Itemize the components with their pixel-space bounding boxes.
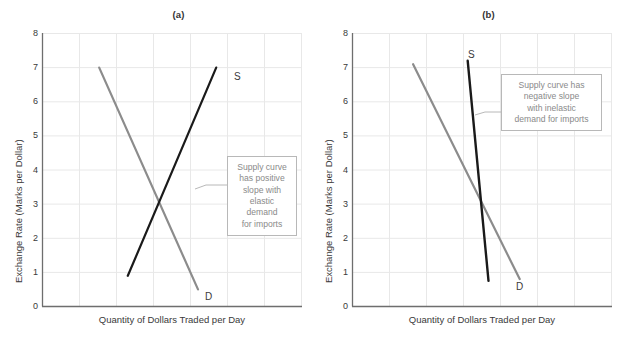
panel-b-ytick-4: 4 <box>334 165 348 175</box>
demand-curve-a <box>99 68 198 290</box>
panel-a-ytick-3: 3 <box>24 199 38 209</box>
panel-a: (a) <box>0 0 317 341</box>
grid-horizontal <box>352 34 612 273</box>
panel-b-ytick-7: 7 <box>334 62 348 72</box>
panel-b-xlabel: Quantity of Dollars Traded per Day <box>352 314 612 325</box>
panel-b-ylabel: Exchange Rate (Marks per Dollar) <box>323 139 334 283</box>
annotation-line: demand for imports <box>508 114 595 125</box>
panel-b-ytick-6: 6 <box>334 96 348 106</box>
grid-horizontal <box>42 34 302 273</box>
panel-b-ytick-8: 8 <box>334 28 348 38</box>
panel-a-xlabel: Quantity of Dollars Traded per Day <box>42 314 302 325</box>
panel-a-annotation: Supply curve has positive slope with ela… <box>227 156 297 236</box>
annotation-line: for imports <box>234 219 290 230</box>
panel-a-ytick-6: 6 <box>24 96 38 106</box>
panel-b-ytick-1: 1 <box>334 267 348 277</box>
supply-curve-a <box>128 68 216 276</box>
annotation-line: elastic demand <box>234 196 290 219</box>
panel-a-ytick-2: 2 <box>24 233 38 243</box>
annotation-line: with inelastic <box>508 103 595 114</box>
annotation-line: has positive <box>234 173 290 184</box>
annotation-leader-b <box>475 112 503 115</box>
panel-a-demand-label: D <box>205 291 212 302</box>
panel-b-plot <box>318 0 635 341</box>
panel-b-ytick-2: 2 <box>334 233 348 243</box>
annotation-leader-a <box>195 185 228 189</box>
supply-curve-b <box>468 61 489 281</box>
panel-b-demand-label: D <box>516 281 523 292</box>
panel-b-annotation: Supply curve has negative slope with ine… <box>501 74 602 131</box>
panel-a-ylabel: Exchange Rate (Marks per Dollar) <box>13 139 24 283</box>
panel-a-ytick-0: 0 <box>24 301 38 311</box>
panel-a-ytick-5: 5 <box>24 130 38 140</box>
annotation-line: Supply curve <box>234 162 290 173</box>
panel-a-ytick-4: 4 <box>24 165 38 175</box>
panel-a-ytick-8: 8 <box>24 28 38 38</box>
figure-container: (a) <box>0 0 635 341</box>
annotation-line: negative slope <box>508 91 595 102</box>
panel-a-ytick-1: 1 <box>24 267 38 277</box>
panel-b-supply-label: S <box>468 49 475 60</box>
panel-b: (b) <box>318 0 635 341</box>
annotation-line: slope with <box>234 185 290 196</box>
annotation-line: Supply curve has <box>508 80 595 91</box>
panel-b-ytick-5: 5 <box>334 130 348 140</box>
panel-a-supply-label: S <box>234 71 241 82</box>
panel-b-ytick-3: 3 <box>334 199 348 209</box>
panel-a-ytick-7: 7 <box>24 62 38 72</box>
panel-b-ytick-0: 0 <box>334 301 348 311</box>
